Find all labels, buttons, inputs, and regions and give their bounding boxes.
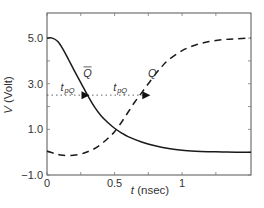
x-tick-label: 0.5	[107, 177, 122, 189]
x-axis-unit: (nsec)	[134, 184, 169, 196]
q-label: Q	[148, 67, 157, 79]
y-axis-unit: (Volt)	[2, 76, 14, 106]
y-axis-label: V (Volt)	[2, 76, 14, 114]
axis-ticks	[47, 13, 251, 175]
series-line-q	[47, 38, 251, 156]
x-tick-label: 1	[179, 177, 185, 189]
plot-border	[47, 13, 251, 175]
plot-frame	[47, 13, 251, 175]
y-tick-label: −1.0	[21, 169, 43, 181]
tick-labels: 00.51−1.01.03.05.0	[21, 32, 185, 189]
y-tick-label: 5.0	[28, 32, 43, 44]
x-tick-label: 0	[44, 177, 50, 189]
propagation-delay-subscript: pQ	[64, 86, 75, 95]
series-lines	[47, 38, 251, 156]
y-tick-label: 1.0	[28, 123, 43, 135]
y-tick-label: 3.0	[28, 78, 43, 90]
chart: 00.51−1.01.03.05.0 QQtpQtpQ t (nsec) V (…	[0, 0, 264, 208]
propagation-delay-subscript: pQ	[116, 86, 127, 95]
arrow-right-icon	[142, 91, 150, 99]
q-bar-label: Q	[83, 67, 92, 79]
x-axis-label: t (nsec)	[131, 184, 170, 196]
